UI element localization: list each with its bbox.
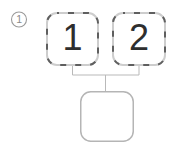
- source-box-1-label: 1: [62, 17, 82, 58]
- source-box-2-label: 2: [129, 17, 149, 58]
- step-marker: 1: [12, 12, 27, 27]
- result-box-group: [81, 92, 134, 142]
- merge-diagram: 1 1 2: [0, 0, 179, 152]
- result-box: [81, 92, 134, 142]
- step-marker-label: 1: [16, 13, 22, 25]
- source-box-2: 2: [113, 13, 165, 65]
- connector-lines: [73, 66, 140, 91]
- diagram-canvas: 1 1 2: [0, 0, 179, 152]
- source-box-1: 1: [47, 13, 98, 65]
